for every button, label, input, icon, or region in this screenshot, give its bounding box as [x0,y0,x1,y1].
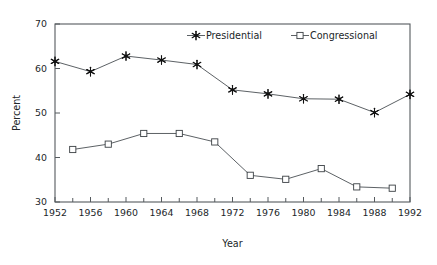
data-point-marker-square [212,139,218,145]
data-point-marker-square [70,146,76,152]
data-point-marker-star-core [338,98,341,101]
series-line-congressional [73,133,393,188]
x-tick-label: 1952 [43,207,67,218]
x-tick-label: 1984 [327,207,351,218]
data-point-marker-square [105,141,111,147]
x-tick-label: 1988 [363,207,387,218]
y-axis-ticks [55,24,60,202]
data-point-marker-square [297,32,303,38]
data-point-marker-star-core [195,34,198,37]
x-tick-label: 1968 [185,207,209,218]
line-chart: 3040506070 19521956196019641968197219761… [0,0,437,265]
y-axis-tick-labels: 3040506070 [35,18,47,207]
data-point-marker-star-core [125,55,128,58]
data-point-marker-square [283,176,289,182]
x-tick-label: 1960 [114,207,138,218]
legend-item-presidential: Presidential [187,30,262,41]
data-point-marker-star-core [302,97,305,100]
series-line-presidential [55,56,410,113]
y-tick-label: 30 [35,196,47,207]
x-tick-label: 1992 [398,207,422,218]
legend-label: Presidential [206,30,262,41]
y-tick-label: 50 [35,107,47,118]
plot-border [55,24,410,202]
data-point-marker-square [389,185,395,191]
series-congressional [70,130,396,191]
y-tick-label: 60 [35,63,47,74]
data-point-marker-star-core [373,111,376,114]
data-point-marker-star-core [160,59,163,62]
data-point-marker-star-core [231,88,234,91]
data-point-marker-star-core [89,70,92,73]
data-point-marker-square [247,172,253,178]
data-point-marker-star-core [267,92,270,95]
data-point-marker-star-core [54,60,57,63]
data-point-marker-star-core [409,93,412,96]
x-tick-label: 1964 [150,207,174,218]
data-series-layer [51,52,413,192]
data-point-marker-square [141,130,147,136]
data-point-marker-square [176,130,182,136]
data-point-marker-star-core [196,63,199,66]
y-tick-label: 40 [35,152,47,163]
legend-item-congressional: Congressional [291,30,378,41]
y-axis-title: Percent [11,95,22,131]
x-axis-title: Year [221,238,242,249]
plot-frame [55,24,410,202]
series-markers-congressional [70,130,396,191]
chart-container: 3040506070 19521956196019641968197219761… [0,0,437,265]
chart-legend: PresidentialCongressional [187,30,378,41]
data-point-marker-square [354,184,360,190]
series-presidential [51,52,413,117]
y-tick-label: 70 [35,18,47,29]
x-axis-ticks [55,197,410,202]
x-axis-tick-labels: 1952195619601964196819721976198019841988… [43,207,422,218]
x-tick-label: 1972 [221,207,245,218]
x-tick-label: 1976 [256,207,280,218]
x-tick-label: 1980 [292,207,316,218]
legend-label: Congressional [310,30,378,41]
x-tick-label: 1956 [79,207,103,218]
data-point-marker-square [318,166,324,172]
